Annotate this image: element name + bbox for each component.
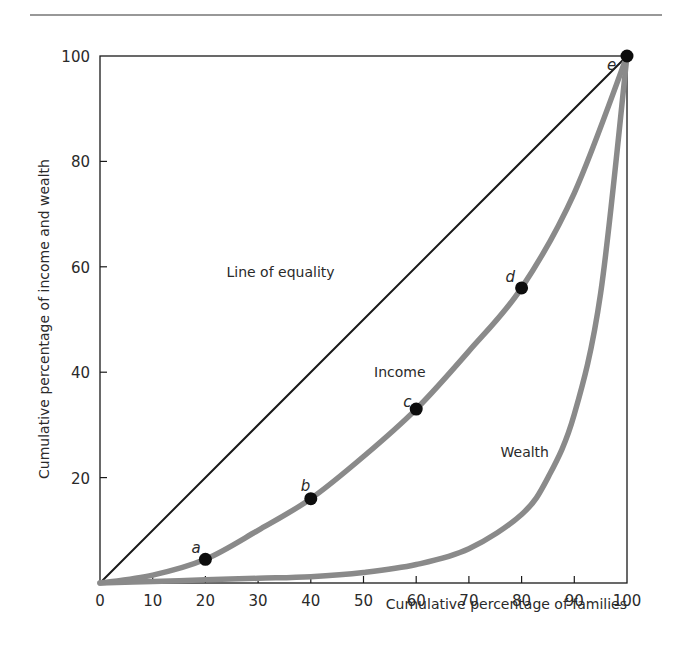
y-tick-label: 40 — [71, 364, 90, 382]
point-b-label: b — [301, 477, 311, 495]
annotations: Line of equality Income Wealth — [226, 264, 549, 459]
line-of-equality-curve — [100, 56, 627, 583]
series-lines — [100, 56, 627, 583]
x-tick-label: 40 — [301, 592, 320, 610]
point-c-marker — [410, 403, 423, 416]
y-tick-label: 60 — [71, 259, 90, 277]
axis-ticks: 010203040506070809010020406080100 — [61, 48, 641, 610]
point-a-label: a — [191, 539, 200, 557]
y-tick-label: 100 — [61, 48, 90, 66]
point-d-label: d — [506, 268, 516, 286]
income-curve-label: Income — [374, 364, 426, 380]
data-points: abcde — [191, 50, 633, 566]
lorenz-curve-chart: 010203040506070809010020406080100 abcde … — [0, 0, 673, 663]
x-tick-label: 20 — [196, 592, 215, 610]
point-c-label: c — [403, 393, 412, 411]
x-tick-label: 30 — [249, 592, 268, 610]
wealth-curve-label: Wealth — [501, 444, 549, 460]
x-axis-title: Cumulative percentage of families — [386, 596, 627, 612]
point-e-marker — [621, 50, 634, 63]
y-axis-title: Cumulative percentage of income and weal… — [36, 159, 52, 479]
x-tick-label: 0 — [95, 592, 105, 610]
y-tick-label: 20 — [71, 470, 90, 488]
point-e-label: e — [607, 56, 616, 74]
line-of-equality-label: Line of equality — [226, 264, 334, 280]
x-tick-label: 10 — [143, 592, 162, 610]
point-d-marker — [515, 281, 528, 294]
point-a-marker — [199, 553, 212, 566]
y-tick-label: 80 — [71, 153, 90, 171]
x-tick-label: 50 — [354, 592, 373, 610]
